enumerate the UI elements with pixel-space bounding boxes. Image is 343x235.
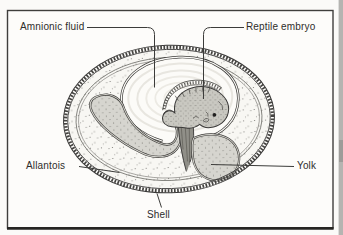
label-amnionic-fluid: Amnionic fluid: [20, 21, 84, 33]
label-reptile-embryo: Reptile embryo: [246, 21, 315, 33]
egg-diagram-canvas: [0, 0, 343, 235]
figure-reptile-egg: Amnionic fluid Reptile embryo Allantois …: [0, 0, 343, 235]
label-yolk: Yolk: [297, 160, 316, 172]
page-edge-strip: [339, 0, 343, 235]
label-allantois: Allantois: [26, 160, 65, 172]
page-edge-shadow: [339, 140, 343, 162]
label-shell: Shell: [147, 209, 170, 221]
